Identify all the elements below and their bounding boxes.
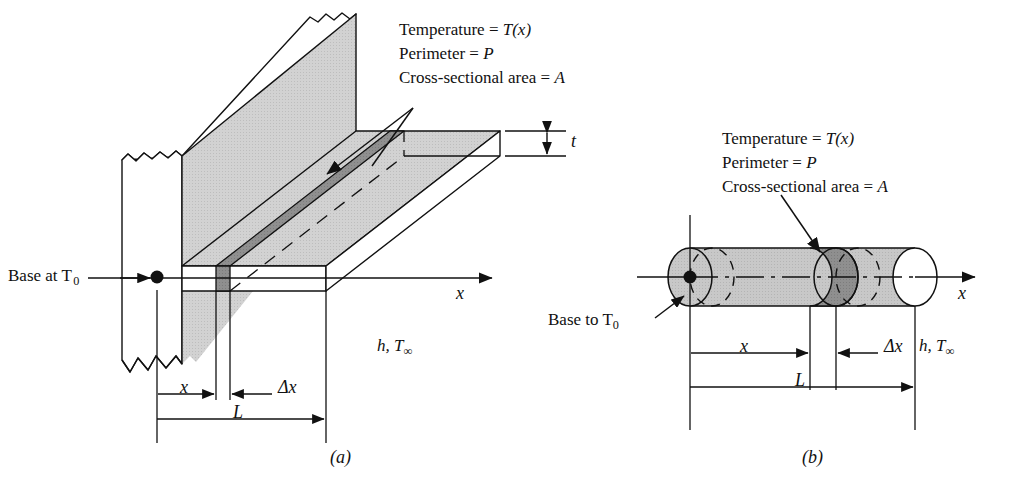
panel-a-x-axis-label: x: [456, 283, 464, 305]
panel-a-environment-label: h, T∞: [377, 336, 412, 359]
panel-b-environment-h: h,: [919, 336, 932, 355]
panel-b-annotation-line3-text: Cross-sectional area =: [722, 177, 873, 196]
panel-a-annotation-line2-text: Perimeter =: [399, 44, 479, 63]
panel-a-dim-delta-x-label: Δx: [278, 377, 297, 399]
panel-a-annotation-line1-value: T(x): [503, 20, 531, 39]
panel-a-base-label-text: Base at T: [8, 266, 72, 285]
panel-b-annotation-line3-value: A: [877, 177, 887, 196]
panel-b-base-leader: [655, 296, 684, 318]
panel-b-drawing: [637, 195, 975, 430]
panel-b-dim-x-label: x: [740, 336, 748, 358]
panel-b-annotation-line2: Perimeter = P: [722, 153, 817, 174]
panel-b-base-label-text: Base to T: [548, 310, 613, 329]
wall-front-face-lower: [182, 291, 253, 364]
panel-a-dim-x-label: x: [180, 377, 188, 399]
panel-b-annotation-line2-value: P: [806, 153, 816, 172]
panel-a-annotation-line3: Cross-sectional area = A: [399, 68, 565, 89]
wall-left-face: [122, 151, 182, 372]
panel-a-thickness-label: t: [571, 131, 576, 153]
panel-a-annotation-line3-text: Cross-sectional area =: [399, 68, 550, 87]
panel-b-annotation-line2-text: Perimeter =: [722, 153, 802, 172]
panel-a-environment-h: h,: [377, 336, 390, 355]
panel-b-annotation-line3: Cross-sectional area = A: [722, 177, 888, 198]
panel-a-thickness-dimension: [505, 131, 566, 156]
panel-a-annotation-line1-text: Temperature =: [399, 20, 499, 39]
panel-b-caption: (b): [802, 447, 823, 469]
panel-a-annotation-line2: Perimeter = P: [399, 44, 494, 65]
panel-b-base-label: Base to T0: [548, 310, 619, 333]
panel-b-annotation-line1-value: T(x): [826, 129, 854, 148]
panel-a-annotation-line3-value: A: [554, 68, 564, 87]
panel-b-environment-label: h, T∞: [919, 336, 954, 359]
panel-a-base-label-subscript: 0: [73, 274, 79, 288]
figure-container: Temperature = T(x) Perimeter = P Cross-s…: [0, 0, 1017, 500]
panel-a-annotation-line2-value: P: [483, 44, 493, 63]
panel-b-annotation-leader: [781, 195, 820, 252]
panel-a-caption: (a): [330, 447, 351, 469]
panel-b-x-axis-label: x: [958, 283, 966, 305]
panel-a-annotation-line1: Temperature = T(x): [399, 20, 531, 41]
panel-b-dim-L-label: L: [795, 370, 805, 392]
panel-b-annotation-line1: Temperature = T(x): [722, 129, 854, 150]
panel-b-dim-delta-x-label: Δx: [884, 336, 903, 358]
panel-a-dim-L-label: L: [233, 402, 243, 424]
panel-b-environment-T-subscript: ∞: [945, 344, 954, 358]
panel-a-base-point: [151, 271, 164, 284]
panel-b-base-label-subscript: 0: [613, 318, 619, 332]
panel-b-annotation-line1-text: Temperature =: [722, 129, 822, 148]
panel-a-base-label: Base at T 0: [8, 266, 79, 289]
panel-b-witness-lines: [690, 215, 915, 430]
panel-a-environment-T-subscript: ∞: [403, 344, 412, 358]
